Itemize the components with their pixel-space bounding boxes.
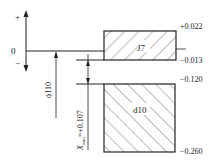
- d10-zone: [104, 84, 175, 152]
- d10-lower-deviation: −0.260: [180, 147, 203, 156]
- d10-label: d10: [133, 105, 147, 115]
- basic-size-label: ϕ110: [44, 82, 53, 98]
- arrow-up-icon: [86, 60, 90, 66]
- clearance-label: Xmin=+0.107: [76, 110, 86, 151]
- clearance-value: =+0.107: [76, 110, 85, 137]
- minus-label: −: [15, 58, 20, 68]
- d10-upper-deviation: −0.120: [180, 75, 203, 84]
- tolerance-diagram: + 0 − J7 +0.022 −0.013 d10 −0.120 −0.260…: [0, 0, 221, 161]
- zero-label: 0: [11, 46, 16, 56]
- deviation-axis: [24, 10, 29, 72]
- arrow-up-icon: [54, 51, 58, 58]
- arrow-up-icon: [24, 10, 29, 17]
- j7-lower-deviation: −0.013: [180, 56, 203, 65]
- plus-label: +: [15, 12, 20, 22]
- j7-label: J7: [137, 43, 146, 53]
- arrow-down-icon: [86, 78, 90, 84]
- arrow-down-icon: [24, 65, 29, 72]
- j7-upper-deviation: +0.022: [180, 22, 203, 31]
